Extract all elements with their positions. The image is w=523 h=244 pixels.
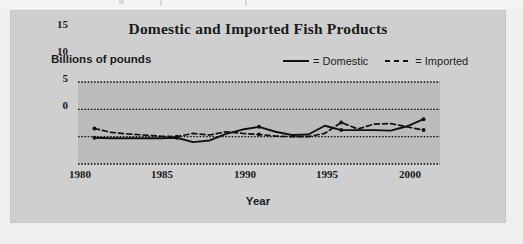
x-tick-label-1990: 1990	[222, 168, 268, 180]
legend-label-imported: = Imported	[415, 55, 468, 67]
x-tick-label-1995: 1995	[304, 168, 350, 180]
data-point-imported-1995	[339, 120, 343, 124]
x-tick-label-2000: 2000	[387, 168, 433, 180]
legend-label-domestic: = Domestic	[313, 55, 368, 67]
series-layer	[92, 117, 425, 142]
x-axis-title: Year	[11, 195, 505, 207]
x-tick-label-1980: 1980	[57, 168, 103, 180]
chart-title: Domestic and Imported Fish Products	[11, 20, 505, 38]
data-point-imported-1990	[257, 132, 261, 136]
solid-line-icon	[283, 57, 309, 65]
legend-item-imported: = Imported	[385, 55, 468, 67]
y-tick-label-0: 0	[42, 99, 68, 111]
dashed-line-icon	[385, 57, 411, 65]
y-tick-label-10: 10	[42, 45, 68, 57]
x-tick-label-1985: 1985	[139, 168, 185, 180]
chart-legend: = Domestic = Imported	[283, 55, 468, 67]
legend-item-domestic: = Domestic	[283, 55, 368, 67]
data-point-domestic-1990	[257, 125, 261, 129]
plot-svg	[78, 82, 440, 164]
y-tick-label-5: 5	[42, 72, 68, 84]
data-point-imported-1980	[92, 126, 96, 130]
series-line-domestic	[94, 119, 423, 142]
y-tick-label-15: 15	[42, 18, 68, 30]
data-point-domestic-1980	[92, 136, 96, 140]
scan-artifact-strip	[0, 0, 523, 9]
data-point-imported-2000	[422, 128, 426, 132]
chart-figure-card: Domestic and Imported Fish Products Bill…	[11, 11, 505, 222]
plot-area	[78, 82, 440, 164]
data-point-domestic-1995	[339, 128, 343, 132]
data-point-domestic-2000	[422, 117, 426, 121]
data-point-imported-1985	[175, 135, 179, 139]
